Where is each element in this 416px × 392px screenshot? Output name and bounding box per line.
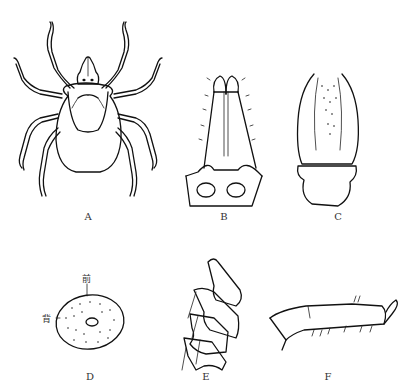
panel-label-c: C bbox=[334, 211, 342, 222]
annotation-front: 前 bbox=[82, 272, 91, 285]
panel-d-spiracular-plate-drawing bbox=[53, 284, 128, 353]
panel-label-d: D bbox=[86, 371, 94, 382]
panel-b-capitulum-dorsal-drawing bbox=[186, 76, 262, 206]
panel-c-capitulum-ventral-drawing bbox=[298, 74, 359, 206]
panel-label-a: A bbox=[84, 211, 91, 222]
panel-label-f: F bbox=[325, 371, 332, 382]
annotation-dorsal: 背 bbox=[42, 312, 51, 325]
panel-a-tick-drawing bbox=[14, 22, 162, 196]
panel-label-b: B bbox=[220, 211, 227, 222]
panel-e-coxae-drawing bbox=[182, 259, 241, 370]
tick-anatomy-figure: A B C D E F 前 背 bbox=[0, 0, 416, 392]
panel-f-tarsus-drawing bbox=[270, 296, 397, 350]
panel-label-e: E bbox=[202, 371, 209, 382]
figure-drawing bbox=[0, 0, 416, 392]
